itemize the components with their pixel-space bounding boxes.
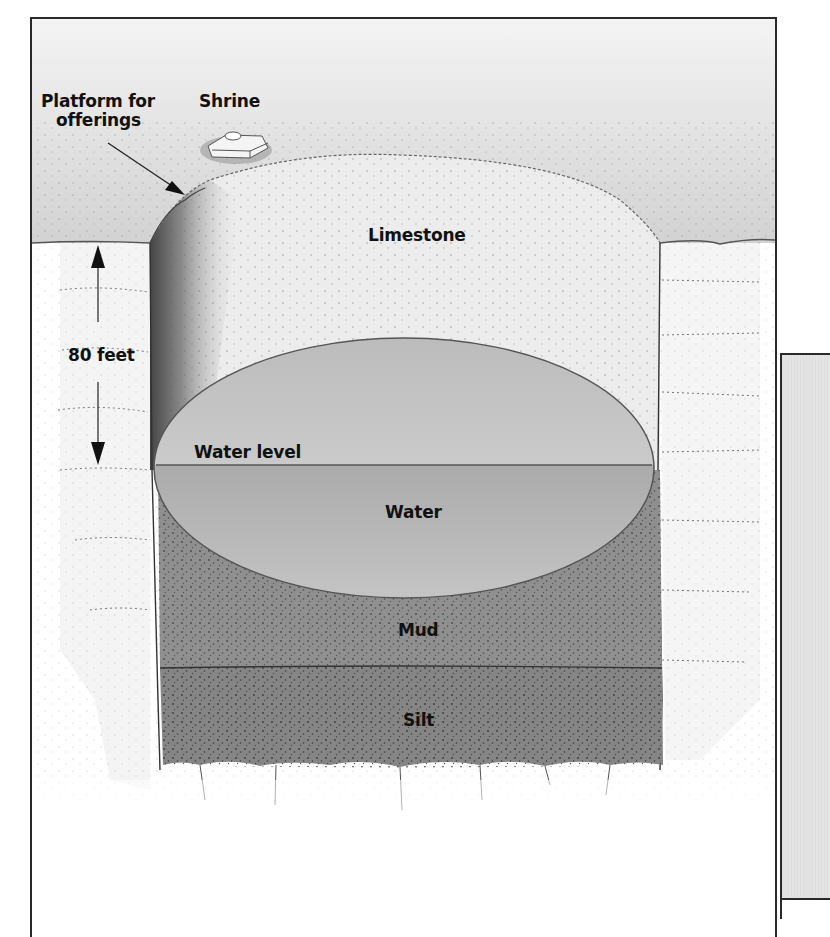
- label-limestone: Limestone: [368, 226, 466, 245]
- label-platform-line1: Platform for: [41, 92, 155, 111]
- label-platform-line2: offerings: [41, 111, 155, 130]
- label-shrine: Shrine: [199, 92, 260, 111]
- label-depth-80-feet: 80 feet: [68, 346, 135, 365]
- label-mud: Mud: [398, 621, 439, 640]
- label-platform-for-offerings: Platform for offerings: [41, 92, 155, 130]
- label-water-level: Water level: [194, 443, 301, 462]
- label-water: Water: [385, 503, 442, 522]
- label-silt: Silt: [403, 711, 434, 730]
